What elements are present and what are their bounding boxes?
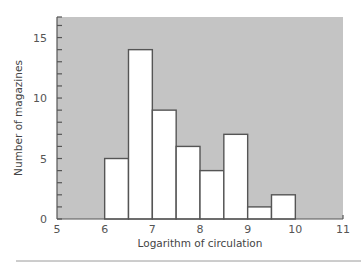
- x-tick-label: 9: [244, 223, 251, 236]
- y-tick-label: 5: [40, 153, 47, 166]
- x-tick-label: 5: [54, 223, 61, 236]
- histogram-bar: [248, 207, 272, 219]
- x-tick-label: 10: [288, 223, 302, 236]
- histogram-bar: [105, 159, 129, 219]
- histogram-bar: [129, 50, 153, 219]
- x-tick-label: 6: [101, 223, 108, 236]
- y-tick-label: 0: [40, 213, 47, 226]
- x-tick-label: 8: [197, 223, 204, 236]
- y-axis-title: Number of magazines: [12, 60, 24, 176]
- histogram-bar: [152, 110, 176, 219]
- histogram-bar: [176, 146, 200, 219]
- histogram-bar: [200, 171, 224, 219]
- y-tick-label: 15: [33, 32, 47, 45]
- x-tick-label: 7: [149, 223, 156, 236]
- histogram-chart: 051015 567891011 Logarithm of circulatio…: [0, 0, 361, 264]
- histogram-bar: [224, 134, 248, 219]
- y-tick-label: 10: [33, 92, 47, 105]
- x-tick-label: 11: [336, 223, 350, 236]
- x-axis-title: Logarithm of circulation: [138, 237, 263, 249]
- histogram-bar: [272, 195, 296, 219]
